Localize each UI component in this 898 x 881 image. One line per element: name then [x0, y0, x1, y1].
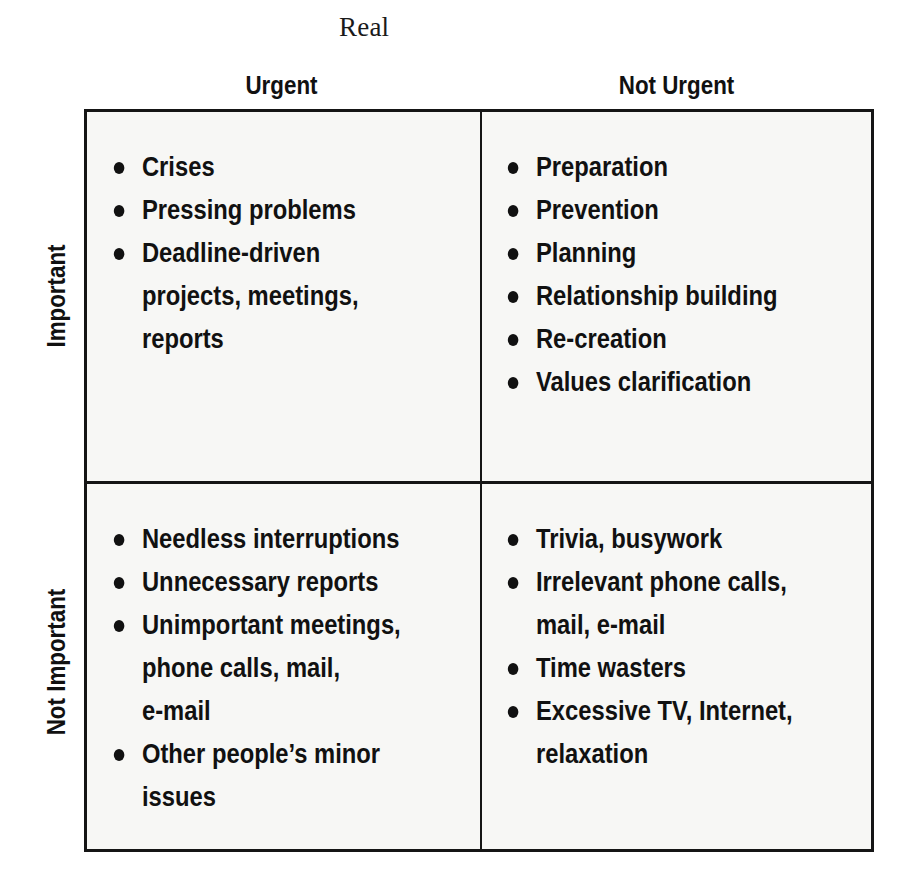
list-item-text: Planning	[536, 238, 636, 268]
list-item: Irrelevant phone calls,	[499, 561, 888, 604]
quadrant-not-important-not-urgent: Trivia, busyworkIrrelevant phone calls,m…	[499, 518, 869, 776]
item-list: CrisesPressing problemsDeadline-drivenpr…	[105, 146, 475, 361]
list-item-text: Prevention	[536, 195, 659, 225]
item-list: PreparationPreventionPlanningRelationshi…	[499, 146, 869, 404]
bullet-icon	[508, 377, 519, 389]
bullet-icon	[508, 205, 519, 217]
list-item-text: issues	[142, 782, 216, 812]
list-item: Unnecessary reports	[105, 561, 494, 604]
priority-matrix-grid: CrisesPressing problemsDeadline-drivenpr…	[84, 109, 874, 852]
list-item-text: mail, e-mail	[536, 610, 665, 640]
list-item-continuation: issues	[105, 776, 494, 819]
row-header-not-important-label: Not Important	[41, 589, 72, 736]
list-item-text: Time wasters	[536, 653, 686, 683]
list-item-text: Excessive TV, Internet,	[536, 696, 793, 726]
list-item: Time wasters	[499, 647, 888, 690]
list-item-text: Values clarification	[536, 367, 751, 397]
list-item-text: phone calls, mail,	[142, 653, 340, 683]
bullet-icon	[508, 162, 519, 174]
list-item: Preparation	[499, 146, 888, 189]
bullet-icon	[114, 534, 125, 546]
bullet-icon	[508, 248, 519, 260]
bullet-icon	[114, 749, 125, 761]
bullet-icon	[508, 291, 519, 303]
bullet-icon	[508, 663, 519, 675]
quadrant-important-urgent: CrisesPressing problemsDeadline-drivenpr…	[105, 146, 475, 361]
list-item-text: Crises	[142, 152, 215, 182]
horizontal-divider	[87, 481, 871, 484]
list-item: Trivia, busywork	[499, 518, 888, 561]
list-item-text: Relationship building	[536, 281, 778, 311]
bullet-icon	[114, 162, 125, 174]
list-item: Pressing problems	[105, 189, 494, 232]
list-item-continuation: e-mail	[105, 690, 494, 733]
list-item: Prevention	[499, 189, 888, 232]
list-item: Unimportant meetings,	[105, 604, 494, 647]
list-item-text: reports	[142, 324, 224, 354]
list-item: Values clarification	[499, 361, 888, 404]
list-item: Deadline-driven	[105, 232, 494, 275]
list-item: Re-creation	[499, 318, 888, 361]
item-list: Needless interruptionsUnnecessary report…	[105, 518, 475, 819]
bullet-icon	[114, 620, 125, 632]
bullet-icon	[114, 577, 125, 589]
list-item-text: relaxation	[536, 739, 648, 769]
list-item-continuation: phone calls, mail,	[105, 647, 494, 690]
list-item-text: projects, meetings,	[142, 281, 359, 311]
list-item-continuation: projects, meetings,	[105, 275, 494, 318]
list-item-continuation: mail, e-mail	[499, 604, 888, 647]
item-list: Trivia, busyworkIrrelevant phone calls,m…	[499, 518, 869, 776]
bullet-icon	[508, 577, 519, 589]
list-item-text: Irrelevant phone calls,	[536, 567, 787, 597]
list-item-text: e-mail	[142, 696, 211, 726]
quadrant-important-not-urgent: PreparationPreventionPlanningRelationshi…	[499, 146, 869, 404]
diagram-title: Real	[339, 12, 389, 43]
list-item: Needless interruptions	[105, 518, 494, 561]
list-item-text: Deadline-driven	[142, 238, 320, 268]
bullet-icon	[508, 706, 519, 718]
list-item: Excessive TV, Internet,	[499, 690, 888, 733]
list-item-text: Other people’s minor	[142, 739, 380, 769]
list-item-text: Needless interruptions	[142, 524, 399, 554]
list-item: Crises	[105, 146, 494, 189]
list-item-text: Unnecessary reports	[142, 567, 378, 597]
quadrant-not-important-urgent: Needless interruptionsUnnecessary report…	[105, 518, 475, 819]
bullet-icon	[114, 248, 125, 260]
list-item-text: Pressing problems	[142, 195, 356, 225]
list-item-text: Re-creation	[536, 324, 667, 354]
list-item-continuation: reports	[105, 318, 494, 361]
list-item-text: Trivia, busywork	[536, 524, 722, 554]
list-item: Planning	[499, 232, 888, 275]
row-header-important-label: Important	[41, 244, 72, 347]
bullet-icon	[508, 334, 519, 346]
bullet-icon	[114, 205, 125, 217]
column-header-not-urgent: Not Urgent	[507, 70, 847, 101]
bullet-icon	[508, 534, 519, 546]
list-item-text: Unimportant meetings,	[142, 610, 401, 640]
list-item-text: Preparation	[536, 152, 668, 182]
list-item-continuation: relaxation	[499, 733, 888, 776]
list-item: Relationship building	[499, 275, 888, 318]
list-item: Other people’s minor	[105, 733, 494, 776]
column-header-urgent: Urgent	[112, 70, 452, 101]
